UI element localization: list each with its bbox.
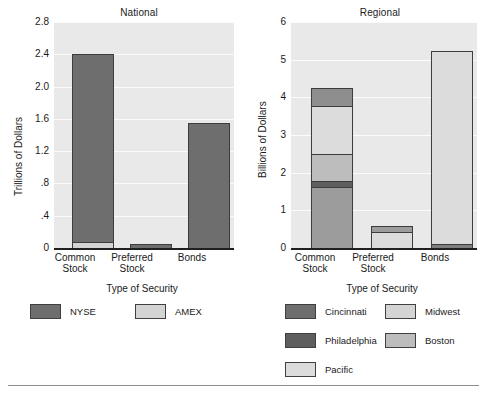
ytick-national-1: 2.4 — [35, 49, 49, 59]
seg-nyse-common-stock — [72, 54, 114, 242]
national-x-axis-label: Type of Security — [0, 283, 244, 294]
xtick-national-preferred-stock: Preferred Stock — [110, 252, 154, 274]
legend-swatch-icon — [135, 304, 166, 319]
legend-item-amex[interactable]: AMEX — [135, 304, 240, 319]
ytick-regional-0: 6 — [280, 17, 286, 27]
legend-item-midwest[interactable]: Midwest — [385, 304, 485, 319]
ytick-national-0: 2.8 — [35, 17, 49, 27]
bar-regional-preferred-stock[interactable] — [371, 226, 413, 248]
gridline-6 — [291, 22, 477, 23]
legend-item-philadelphia[interactable]: Philadelphia — [285, 333, 385, 348]
bar-regional-common-stock[interactable] — [311, 88, 353, 248]
figure-root: National Trillions of Dollars 2.8 2.4 2.… — [0, 0, 487, 395]
national-y-axis-label: Trillions of Dollars — [13, 117, 24, 196]
regional-plot-area: 6 5 4 3 2 1 0 — [291, 22, 477, 248]
ytick-national-6: .4 — [41, 211, 49, 221]
ytick-regional-5: 1 — [280, 205, 286, 215]
xtick-regional-common-stock: Common Stock — [293, 252, 337, 274]
xtick-national-bonds: Bonds — [170, 252, 214, 263]
seg-pacific-bonds — [431, 51, 473, 243]
gridline-2-8 — [54, 22, 234, 23]
legend-label-boston: Boston — [425, 335, 455, 346]
legend-swatch-icon — [285, 362, 316, 377]
ytick-national-5: .8 — [41, 178, 49, 188]
regional-y-axis-label: Billions of Dollars — [257, 101, 268, 178]
legend-row: Cincinnati Midwest — [285, 303, 485, 319]
legend-label-nyse: NYSE — [70, 306, 96, 317]
legend-label-cincinnati: Cincinnati — [325, 306, 367, 317]
legend-swatch-icon — [285, 304, 316, 319]
ytick-national-4: 1.2 — [35, 146, 49, 156]
legend-item-pacific[interactable]: Pacific — [285, 362, 385, 377]
legend-swatch-icon — [285, 333, 316, 348]
legend-swatch-icon — [30, 304, 61, 319]
xtick-regional-preferred-stock: Preferred Stock — [351, 252, 395, 274]
legend-label-amex: AMEX — [175, 306, 202, 317]
xtick-regional-bonds: Bonds — [413, 252, 457, 263]
ytick-regional-3: 3 — [280, 130, 286, 140]
seg-philadelphia-common-stock — [311, 181, 353, 187]
ytick-national-3: 1.6 — [35, 114, 49, 124]
legend-row: NYSE AMEX — [30, 303, 240, 319]
bar-national-bonds[interactable] — [188, 123, 230, 248]
seg-midwest-common-stock — [311, 88, 353, 106]
legend-label-midwest: Midwest — [425, 306, 460, 317]
ytick-national-2: 2.0 — [35, 82, 49, 92]
legend-row: Philadelphia Boston — [285, 332, 485, 348]
legend-item-boston[interactable]: Boston — [385, 333, 485, 348]
legend-item-nyse[interactable]: NYSE — [30, 304, 135, 319]
ytick-regional-2: 4 — [280, 92, 286, 102]
seg-pacific-preferred-stock — [371, 232, 413, 248]
regional-x-axis-label: Type of Security — [243, 283, 487, 294]
national-legend: NYSE AMEX — [30, 303, 240, 332]
regional-legend: Cincinnati Midwest Philadelphia Boston P… — [285, 303, 485, 390]
footer-rule — [8, 385, 479, 386]
legend-label-pacific: Pacific — [325, 364, 353, 375]
legend-swatch-icon — [385, 333, 416, 348]
panel-national: National Trillions of Dollars 2.8 2.4 2.… — [0, 0, 244, 300]
national-x-axis — [54, 248, 234, 250]
legend-label-philadelphia: Philadelphia — [325, 335, 377, 346]
national-plot-area: 2.8 2.4 2.0 1.6 1.2 .8 .4 0 — [54, 22, 234, 248]
bar-national-common-stock[interactable] — [72, 54, 114, 248]
seg-cincinnati-common-stock — [311, 187, 353, 248]
ytick-regional-6: 0 — [280, 243, 286, 253]
ytick-regional-1: 5 — [280, 55, 286, 65]
ytick-regional-4: 2 — [280, 168, 286, 178]
legend-item-cincinnati[interactable]: Cincinnati — [285, 304, 385, 319]
bar-regional-bonds[interactable] — [431, 51, 473, 248]
xtick-national-common-stock: Common Stock — [54, 252, 96, 274]
seg-boston-preferred-stock — [371, 226, 413, 232]
legend-row: Pacific — [285, 361, 485, 377]
ytick-national-7: 0 — [43, 243, 49, 253]
seg-nyse-bonds — [188, 123, 230, 248]
regional-x-axis — [291, 248, 477, 250]
seg-pacific-common-stock — [311, 106, 353, 154]
seg-boston-common-stock — [311, 154, 353, 182]
panel-regional: Regional Billions of Dollars 6 5 4 3 2 1… — [243, 0, 487, 300]
legend-swatch-icon — [385, 304, 416, 319]
